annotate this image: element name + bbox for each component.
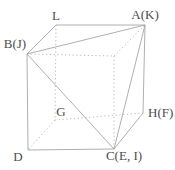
cube-figure: LA(K)B(J)GH(F)DC(E, I) [0,0,175,170]
edge-G-D-hidden [28,120,55,150]
vertex-label-l: L [52,8,60,23]
edge-B-A [27,25,145,54]
vertex-label-d: D [13,149,22,164]
cube-edges [27,25,145,150]
edge-C-D [28,149,114,150]
edge-B-C [27,54,114,149]
cube-diagram-svg: LA(K)B(J)GH(F)DC(E, I) [0,0,175,170]
edge-A-H [143,25,145,113]
edge-B-L [27,25,56,54]
edge-D-B [27,54,28,150]
vertex-label-g: G [56,104,65,119]
edge-V-A-hidden [114,25,145,56]
vertex-label-h: H(F) [148,105,173,120]
vertex-label-c: C(E, I) [106,148,142,163]
edge-B-V-hidden [27,54,114,56]
vertex-label-a: A(K) [131,7,158,22]
edge-G-H-hidden [55,113,143,120]
vertex-label-b: B(J) [4,36,26,51]
cube-vertex-labels: LA(K)B(J)GH(F)DC(E, I) [4,7,173,164]
